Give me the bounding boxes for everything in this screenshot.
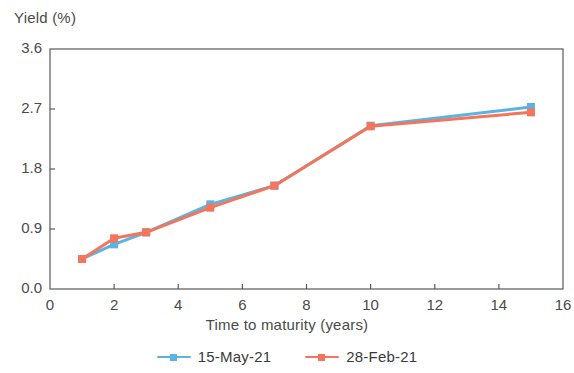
x-tick-label: 4	[158, 296, 198, 313]
legend-swatch-series-1	[157, 351, 191, 363]
y-tick-label: 0.9	[0, 219, 42, 236]
data-point-marker	[527, 108, 535, 116]
axis-frame	[50, 49, 563, 289]
data-point-marker	[110, 234, 118, 242]
x-tick-label: 10	[351, 296, 391, 313]
x-tick-label: 14	[479, 296, 519, 313]
yield-curve-chart: Yield (%) 0.00.91.82.73.6 0246810121416 …	[0, 0, 574, 373]
y-tick-label: 1.8	[0, 159, 42, 176]
data-point-marker	[78, 255, 86, 263]
x-tick-label: 8	[287, 296, 327, 313]
series-line	[82, 112, 531, 259]
data-point-marker	[206, 204, 214, 212]
tick-marks	[50, 109, 499, 289]
y-tick-label: 2.7	[0, 99, 42, 116]
legend-label-series-1: 15-May-21	[198, 348, 272, 365]
y-tick-label: 3.6	[0, 39, 42, 56]
x-tick-label: 16	[543, 296, 574, 313]
legend-item-series-2[interactable]: 28-Feb-21	[305, 348, 417, 365]
legend-swatch-series-2	[305, 351, 339, 363]
y-tick-label: 0.0	[0, 279, 42, 296]
data-point-marker	[270, 182, 278, 190]
data-series-layer	[78, 103, 535, 263]
data-point-marker	[367, 122, 375, 130]
x-tick-label: 6	[222, 296, 262, 313]
x-tick-label: 12	[415, 296, 455, 313]
chart-legend: 15-May-21 28-Feb-21	[0, 348, 574, 365]
legend-label-series-2: 28-Feb-21	[346, 348, 417, 365]
x-tick-label: 2	[94, 296, 134, 313]
x-tick-label: 0	[30, 296, 70, 313]
x-axis-title: Time to maturity (years)	[0, 316, 574, 333]
series-1	[78, 103, 535, 263]
data-point-marker	[142, 228, 150, 236]
series-2	[78, 108, 535, 263]
legend-item-series-1[interactable]: 15-May-21	[157, 348, 272, 365]
